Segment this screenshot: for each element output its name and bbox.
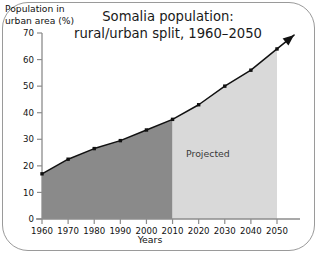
- data-point-marker: [66, 158, 69, 161]
- chart-plot-area: 010203040506070 196019701980199020002010…: [0, 0, 317, 253]
- x-tick-label: 2040: [240, 226, 262, 236]
- data-point-marker: [249, 69, 252, 72]
- y-tick-label: 20: [23, 161, 34, 171]
- data-point-marker: [40, 172, 43, 175]
- trend-arrow-icon: [283, 35, 294, 46]
- x-axis-title: Years: [100, 234, 200, 245]
- data-point-marker: [275, 47, 278, 50]
- data-point-marker: [197, 103, 200, 106]
- chart-figure: Population in urban area (%) Somalia pop…: [0, 0, 317, 253]
- y-tick-label: 40: [23, 108, 34, 118]
- y-tick-label: 60: [23, 55, 34, 65]
- data-point-marker: [145, 128, 148, 131]
- data-point-marker: [93, 147, 96, 150]
- y-tick-label: 30: [23, 134, 34, 144]
- x-tick-label: 2050: [266, 226, 288, 236]
- y-tick-label: 70: [23, 28, 34, 38]
- y-tick-label: 50: [23, 81, 34, 91]
- data-point-marker: [119, 139, 122, 142]
- data-point-marker: [171, 118, 174, 121]
- x-tick-label: 2030: [214, 226, 236, 236]
- x-tick-label: 1970: [57, 226, 79, 236]
- x-tick-label: 1960: [31, 226, 53, 236]
- area-fill-historical: [42, 119, 173, 219]
- area-fill-projected: [173, 49, 277, 219]
- projected-annotation: Projected: [186, 148, 230, 159]
- data-point-marker: [223, 84, 226, 87]
- y-tick-label: 10: [23, 188, 34, 198]
- y-axis-ticks: 010203040506070: [23, 28, 42, 224]
- y-tick-label: 0: [29, 214, 34, 224]
